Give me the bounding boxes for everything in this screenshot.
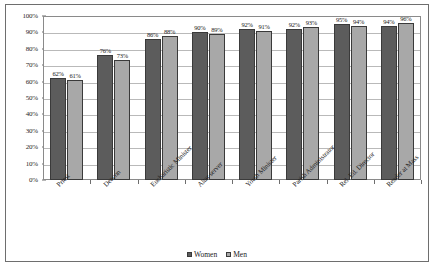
bar-value-label: 94% xyxy=(349,18,369,25)
y-tick-label: 70% xyxy=(26,61,38,69)
bar-women-youth-minister[interactable] xyxy=(239,29,255,180)
bar-value-label: 89% xyxy=(207,26,227,33)
y-tick-label: 40% xyxy=(26,110,38,118)
y-tick-label: 90% xyxy=(26,28,38,36)
bar-women-altar-server[interactable] xyxy=(192,32,208,180)
bar-women-deacon[interactable] xyxy=(97,55,113,180)
bar-women-reader-at-mass[interactable] xyxy=(381,26,397,180)
y-tick-label: 20% xyxy=(26,143,38,151)
bar-value-label: 91% xyxy=(254,23,274,30)
x-axis-labels: PriestDeaconEucharistic MinisterAltar se… xyxy=(43,181,421,243)
y-tick-label: 0% xyxy=(29,176,38,184)
bar-women-priest[interactable] xyxy=(50,78,66,180)
y-tick-label: 60% xyxy=(26,78,38,86)
bar-women-rel-ed-director[interactable] xyxy=(334,24,350,180)
y-tick-label: 100% xyxy=(22,12,38,20)
bar-women-eucharistic-minister[interactable] xyxy=(145,39,161,180)
chart-frame: 0%10%20%30%40%50%60%70%80%90%100% 62%61%… xyxy=(5,4,429,262)
legend-label: Women xyxy=(194,250,217,259)
bar-men-deacon[interactable] xyxy=(114,60,130,180)
bar-men-priest[interactable] xyxy=(67,80,83,180)
legend-item-men[interactable]: Men xyxy=(226,250,247,259)
bar-men-altar-server[interactable] xyxy=(209,34,225,180)
bar-value-label: 93% xyxy=(301,19,321,26)
y-tick-label: 10% xyxy=(26,160,38,168)
bar-value-label: 88% xyxy=(160,28,180,35)
legend-item-women[interactable]: Women xyxy=(187,250,217,259)
bar-value-label: 61% xyxy=(65,72,85,79)
y-axis: 0%10%20%30%40%50%60%70%80%90%100% xyxy=(11,16,41,180)
bar-value-label: 73% xyxy=(112,52,132,59)
chart-legend: WomenMen xyxy=(6,248,428,260)
legend-label: Men xyxy=(233,250,247,259)
bar-value-label: 96% xyxy=(396,15,416,22)
y-tick-label: 30% xyxy=(26,127,38,135)
y-tick-label: 50% xyxy=(26,94,38,102)
legend-swatch-icon xyxy=(187,252,192,257)
x-tick xyxy=(421,180,422,184)
legend-swatch-icon xyxy=(226,252,231,257)
y-tick-label: 80% xyxy=(26,45,38,53)
bar-women-parish-administrator[interactable] xyxy=(286,29,302,180)
